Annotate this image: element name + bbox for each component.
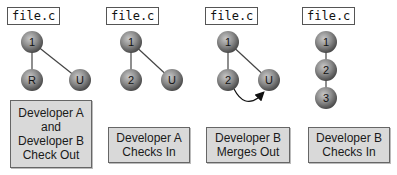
- svg-text:2: 2: [128, 74, 134, 86]
- node-2: 2: [120, 69, 142, 91]
- node-1: 1: [21, 31, 43, 53]
- version-graph: 1 R U: [0, 0, 99, 100]
- caption-text: Developer A Checks In: [116, 131, 181, 159]
- svg-text:1: 1: [128, 36, 134, 48]
- version-graph: 1 2 U: [99, 0, 198, 100]
- svg-text:1: 1: [29, 36, 35, 48]
- svg-text:2: 2: [225, 74, 231, 86]
- svg-text:U: U: [265, 74, 273, 86]
- svg-text:1: 1: [323, 36, 329, 48]
- caption-box: Developer B Checks In: [308, 127, 390, 163]
- svg-text:U: U: [168, 74, 176, 86]
- caption-text: Developer A and Developer B Check Out: [18, 106, 84, 162]
- node-u: U: [161, 69, 183, 91]
- svg-text:R: R: [28, 74, 36, 86]
- panel-checkout: file.c 1 R U Developer A and Developer B…: [0, 0, 99, 175]
- node-2: 2: [315, 59, 337, 81]
- node-3: 3: [315, 87, 337, 109]
- svg-text:3: 3: [323, 92, 329, 104]
- node-2: 2: [217, 69, 239, 91]
- node-1: 1: [120, 31, 142, 53]
- merge-arrow-icon: [234, 89, 263, 101]
- caption-box: Developer B Merges Out: [206, 127, 290, 163]
- node-1: 1: [217, 31, 239, 53]
- node-u: U: [69, 69, 91, 91]
- svg-text:U: U: [76, 74, 84, 86]
- svg-text:2: 2: [323, 64, 329, 76]
- caption-text: Developer B Checks In: [316, 131, 382, 159]
- node-r: R: [21, 69, 43, 91]
- panel-developer-b-checks-in: file.c 1 2 3 Developer B Checks In: [297, 0, 396, 175]
- version-graph: 1 2 3: [297, 0, 396, 115]
- panel-developer-b-merges-out: file.c 1 2 U Developer B Merges Out: [198, 0, 297, 175]
- caption-box: Developer A Checks In: [108, 127, 190, 163]
- node-1: 1: [315, 31, 337, 53]
- caption-text: Developer B Merges Out: [215, 131, 281, 159]
- caption-box: Developer A and Developer B Check Out: [10, 100, 92, 168]
- version-graph: 1 2 U: [198, 0, 297, 110]
- svg-text:1: 1: [225, 36, 231, 48]
- node-u: U: [258, 69, 280, 91]
- panel-developer-a-checks-in: file.c 1 2 U Developer A Checks In: [99, 0, 198, 175]
